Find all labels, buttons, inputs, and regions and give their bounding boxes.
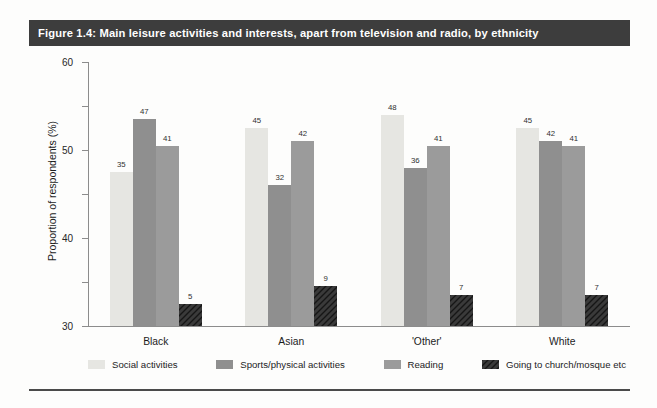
plot-area: 0102030405060 3547415Black4532429Asian48… — [88, 62, 630, 327]
legend-item: Going to church/mosque etc — [482, 359, 626, 370]
bar-group: 4542417White — [516, 62, 608, 326]
bar-value-label: 42 — [298, 129, 307, 138]
bar-value-label: 41 — [163, 134, 172, 143]
y-axis-tick-mark: 40 — [82, 150, 88, 151]
y-axis-title: Proportion of respondents (%) — [46, 76, 58, 306]
y-axis-line — [88, 62, 89, 327]
y-axis-tick-label: 40 — [62, 233, 73, 244]
legend-item: Reading — [384, 359, 444, 370]
y-axis-tick-mark: 50 — [82, 106, 88, 107]
y-axis-tick-label: 50 — [62, 145, 73, 156]
y-axis-tick-label: 60 — [62, 57, 73, 68]
legend-label: Social activities — [112, 359, 178, 370]
legend-item: Sports/physical activities — [216, 359, 345, 370]
x-axis-line — [88, 326, 630, 327]
bar-value-label: 45 — [252, 116, 261, 125]
bar: 48 — [381, 115, 404, 326]
bar: 42 — [539, 141, 562, 326]
bar: 5 — [179, 304, 202, 326]
bar-group: 4532429Asian — [245, 62, 337, 326]
bar-value-label: 35 — [117, 160, 126, 169]
chart-legend: Social activitiesSports/physical activit… — [88, 359, 630, 370]
bar-value-label: 32 — [275, 173, 284, 182]
bar-value-label: 47 — [140, 107, 149, 116]
bar: 32 — [268, 185, 291, 326]
bar: 9 — [314, 286, 337, 326]
legend-swatch — [482, 360, 499, 369]
figure-container: Figure 1.4: Main leisure activities and … — [0, 0, 657, 408]
legend-swatch — [216, 360, 233, 369]
bar: 41 — [156, 146, 179, 326]
bar-value-label: 36 — [411, 156, 420, 165]
x-axis-category-label: Black — [110, 336, 202, 347]
figure-title: Figure 1.4: Main leisure activities and … — [29, 27, 539, 39]
bar: 7 — [585, 295, 608, 326]
bar-value-label: 5 — [188, 292, 192, 301]
bar-value-label: 9 — [324, 274, 328, 283]
bar-group: 3547415Black — [110, 62, 202, 326]
bar: 41 — [427, 146, 450, 326]
y-axis-tick-mark: 20 — [82, 238, 88, 239]
legend-label: Sports/physical activities — [240, 359, 345, 370]
bar-value-label: 42 — [546, 129, 555, 138]
legend-label: Going to church/mosque etc — [506, 359, 626, 370]
bar-value-label: 45 — [523, 116, 532, 125]
bar: 45 — [245, 128, 268, 326]
x-axis-category-label: White — [516, 336, 608, 347]
figure-title-bar: Figure 1.4: Main leisure activities and … — [29, 20, 630, 46]
legend-label: Reading — [408, 359, 444, 370]
bar-group: 4836417'Other' — [381, 62, 473, 326]
legend-swatch — [88, 360, 105, 369]
y-axis-tick-mark: 30 — [82, 194, 88, 195]
bar: 41 — [562, 146, 585, 326]
y-axis-tick-label: 30 — [62, 321, 73, 332]
bar-value-label: 41 — [569, 134, 578, 143]
bar: 42 — [291, 141, 314, 326]
legend-swatch — [384, 360, 401, 369]
bar: 36 — [404, 168, 427, 326]
y-axis-tick-mark: 0 — [82, 326, 88, 327]
y-axis-tick-mark: 10 — [82, 282, 88, 283]
bar-value-label: 7 — [595, 283, 599, 292]
bar: 35 — [110, 172, 133, 326]
bar-value-label: 41 — [434, 134, 443, 143]
bar: 45 — [516, 128, 539, 326]
bar: 7 — [450, 295, 473, 326]
x-axis-category-label: Asian — [245, 336, 337, 347]
bar-value-label: 7 — [459, 283, 463, 292]
bar: 47 — [133, 119, 156, 326]
bar-value-label: 48 — [388, 103, 397, 112]
y-axis-tick-mark: 60 — [82, 62, 88, 63]
bottom-rule — [29, 389, 630, 391]
legend-item: Social activities — [88, 359, 178, 370]
x-axis-category-label: 'Other' — [381, 336, 473, 347]
